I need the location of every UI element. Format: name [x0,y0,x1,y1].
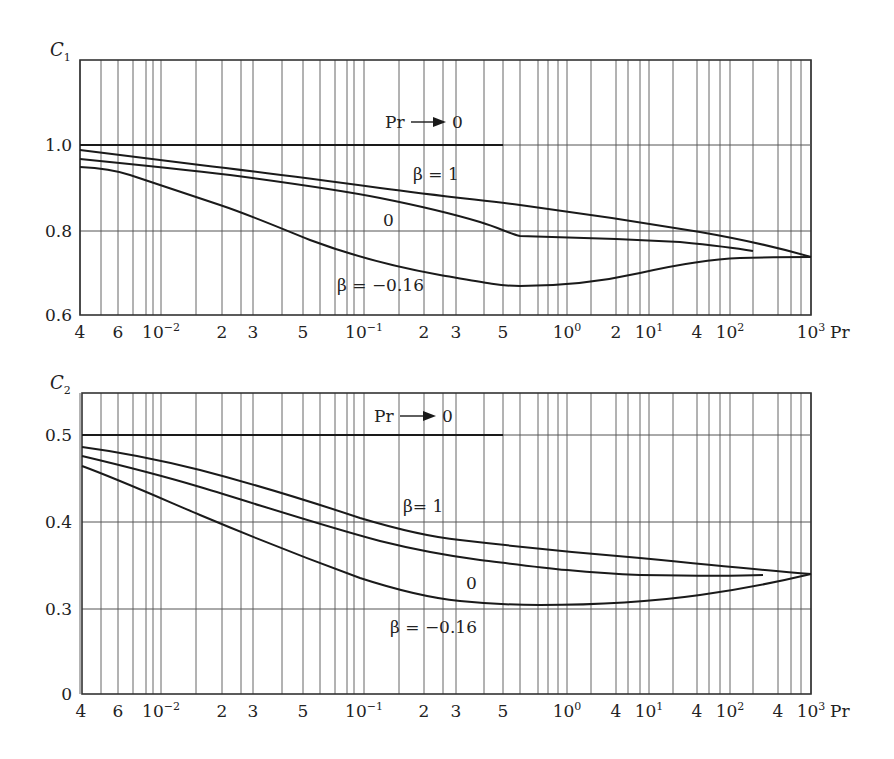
c1-series-beta-neg016 [80,167,811,286]
x-tick-label: 5 [298,701,309,721]
c2-plot-frame [82,393,811,694]
x-tick-label: 5 [298,322,309,342]
x-tick-label: 4 [692,701,703,721]
x-tick-label: 4 [773,701,784,721]
arrow-right-icon [433,117,446,127]
x-tick-label: 102 [716,321,745,342]
svg-text:0: 0 [452,112,463,132]
c2-annotation-beta-0: 0 [466,573,477,593]
x-tick-label: 103 [797,321,826,342]
x-tick-label: 100 [553,700,582,721]
c2-x-axis-label: Pr [830,701,850,721]
y-tick-label: 1.0 [45,135,72,155]
x-tick-label: 5 [498,322,509,342]
c1-annotation-beta-0: 0 [383,210,394,230]
y-tick-label: 0.8 [45,221,72,241]
x-tick-label: 3 [248,701,259,721]
y-tick-label: 0.6 [45,305,72,325]
x-tick-label: 4 [611,701,622,721]
x-tick-label: 101 [635,700,664,721]
x-tick-label: 2 [611,322,622,342]
c1-chart: C1 1.00.80.6 4610−223510−123510021014102… [45,39,850,342]
c1-annotation-beta-neg016: β = −0.16 [337,275,424,295]
c1-y-axis-label: C1 [50,39,71,64]
x-tick-label: 3 [451,701,462,721]
y-tick-label: 0.5 [45,425,72,445]
c1-x-axis-label: Pr [830,322,850,342]
x-tick-label: 5 [498,701,509,721]
c1-x-tick-labels: 4610−223510−123510021014102103 [75,321,826,342]
figure: C1 1.00.80.6 4610−223510−123510021014102… [0,0,894,759]
x-tick-label: 4 [75,322,86,342]
x-tick-label: 6 [113,322,124,342]
x-tick-label: 4 [76,701,87,721]
c1-y-tick-labels: 1.00.80.6 [45,135,72,325]
x-tick-label: 4 [692,322,703,342]
c2-horizontal-gridlines [82,522,811,609]
x-tick-label: 2 [217,322,228,342]
x-tick-label: 10−2 [142,321,180,342]
y-tick-label: 0.4 [45,512,72,532]
svg-text:0: 0 [442,406,453,426]
svg-text:Pr: Pr [374,406,394,426]
x-tick-label: 10−1 [345,700,383,721]
x-tick-label: 6 [113,701,124,721]
c2-y-axis-label: C2 [50,372,71,397]
x-tick-label: 100 [553,321,582,342]
x-tick-label: 2 [217,701,228,721]
x-tick-label: 3 [451,322,462,342]
c2-y-tick-labels: 0.50.40.30 [45,425,72,704]
c1-annotation-beta-1: β = 1 [413,164,459,184]
c2-series-beta-neg016 [82,466,811,605]
c2-annotation-beta-neg016: β = −0.16 [390,617,477,637]
x-tick-label: 102 [716,700,745,721]
x-tick-label: 3 [248,322,259,342]
x-tick-label: 2 [419,701,430,721]
y-tick-label: 0 [61,684,72,704]
x-tick-label: 103 [797,700,826,721]
c2-annotation-beta-1: β= 1 [403,496,443,516]
x-tick-label: 10−2 [142,700,180,721]
c2-x-tick-labels: 4610−223510−1235100410141024103 [76,700,826,721]
c2-vertical-gridlines [80,393,811,694]
svg-text:Pr: Pr [385,112,405,132]
x-tick-label: 10−1 [345,321,383,342]
x-tick-label: 2 [419,322,430,342]
x-tick-label: 101 [635,321,664,342]
y-tick-label: 0.3 [45,599,72,619]
c2-annotation-pr-to-0: Pr 0 [374,406,453,426]
arrow-right-icon [423,411,436,421]
c2-chart: C2 0.50.40.30 4610−223510−12351004101410… [45,372,850,721]
